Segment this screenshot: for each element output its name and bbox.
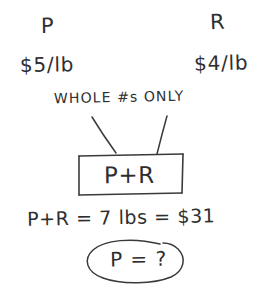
whole-numbers-constraint-note: WHOLE #s ONLY — [54, 88, 185, 107]
variable-label-p: P — [41, 14, 55, 38]
handwritten-note-canvas: P R $5/lb $4/lb WHOLE #s ONLY P+R P+R = … — [0, 0, 267, 295]
leader-line-right-icon — [157, 116, 167, 154]
unit-price-r: $4/lb — [194, 50, 249, 75]
variable-label-r: R — [210, 10, 226, 35]
total-equation: P+R = 7 lbs = $31 — [27, 204, 216, 229]
unknown-question: P = ? — [110, 247, 168, 272]
box-bottom-edge — [79, 193, 182, 195]
leader-line-left-icon — [92, 117, 116, 153]
box-right-edge — [182, 154, 183, 193]
unit-price-p: $5/lb — [20, 52, 75, 77]
combined-quantity-box-label: P+R — [104, 162, 155, 188]
box-top-edge — [79, 154, 183, 156]
